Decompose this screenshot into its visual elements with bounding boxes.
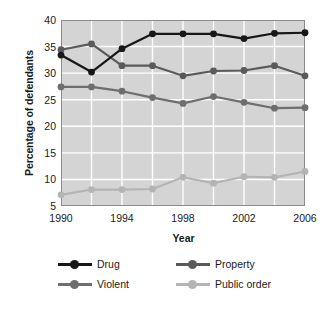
legend-item-label: Property: [215, 258, 255, 270]
legend-item-violent[interactable]: Violent: [58, 278, 176, 290]
legend-item-property[interactable]: Property: [176, 258, 308, 270]
x-axis-tick-label: 1990: [49, 212, 72, 224]
legend-swatch-icon: [176, 258, 210, 270]
legend-item-label: Public order: [215, 278, 271, 290]
legend-item-public-order[interactable]: Public order: [176, 278, 308, 290]
legend-swatch-icon: [58, 278, 92, 290]
legend-swatch-icon: [176, 278, 210, 290]
legend-item-drug[interactable]: Drug: [58, 258, 176, 270]
x-axis-tick-label: 1994: [110, 212, 133, 224]
legend-item-label: Drug: [97, 258, 120, 270]
x-axis-tick-label: 2006: [293, 212, 316, 224]
legend-item-label: Violent: [97, 278, 129, 290]
x-axis-tick-label: 1998: [171, 212, 194, 224]
chart-legend: DrugPropertyViolentPublic order: [58, 258, 308, 290]
x-axis-title: Year: [61, 232, 306, 244]
legend-swatch-icon: [58, 258, 92, 270]
x-axis-tick-label: 2002: [232, 212, 255, 224]
line-chart: Percentage of defendants 403530252015105…: [0, 0, 328, 309]
